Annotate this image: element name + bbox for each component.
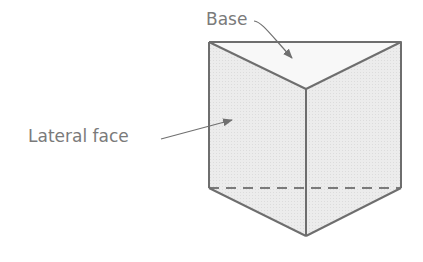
lateral-face-label: Lateral face xyxy=(28,126,129,146)
triangular-prism-diagram: Base Lateral face xyxy=(0,0,423,262)
base-label: Base xyxy=(206,9,247,29)
